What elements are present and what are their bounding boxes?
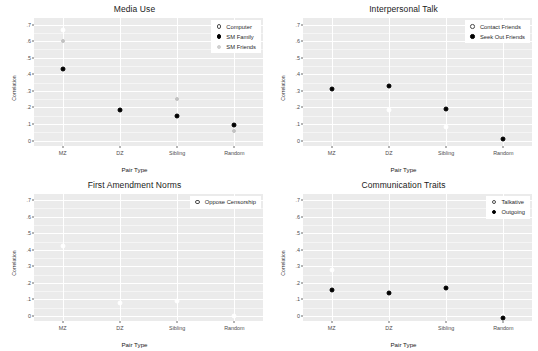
y-axis-tick-mark	[301, 140, 303, 141]
figure-panel-grid: Media UseCorrelationPair Type.7.6.5.4.3.…	[0, 0, 538, 351]
gridline-major	[34, 141, 263, 142]
gridline-vertical	[332, 18, 333, 146]
x-axis-tick-mark	[446, 321, 447, 323]
data-point	[232, 122, 237, 127]
gridline-major	[303, 316, 532, 317]
x-axis-tick-label: MZ	[59, 325, 67, 331]
legend: TalkativeOutgoing	[486, 196, 530, 219]
x-axis-tick-label: DZ	[116, 150, 123, 156]
y-axis-tick-mark	[32, 299, 34, 300]
legend-item[interactable]: Computer	[215, 23, 256, 30]
legend-marker-icon	[215, 33, 222, 40]
panel-first-amendment-norms: First Amendment NormsCorrelationPair Typ…	[0, 176, 269, 351]
y-axis-tick-mark	[32, 200, 34, 201]
legend-item-label: Talkative	[501, 199, 524, 205]
y-axis-tick-label: .7	[27, 197, 32, 203]
gridline-minor	[303, 291, 532, 292]
y-axis-tick-label: .5	[27, 230, 32, 236]
x-axis-tick-mark	[503, 146, 504, 148]
x-axis-tick-mark	[119, 146, 120, 148]
legend-item-label: Contact Friends	[480, 24, 521, 30]
y-axis-label: Correlation	[11, 75, 17, 100]
gridline-major	[303, 91, 532, 92]
y-axis-tick-label: .7	[27, 22, 32, 28]
y-axis-tick-mark	[301, 41, 303, 42]
legend-item[interactable]: SM Friends	[215, 43, 256, 50]
y-axis-tick-mark	[301, 57, 303, 58]
legend-item-label: Outgoing	[501, 209, 525, 215]
legend-item[interactable]: Seek Out Friends	[469, 33, 525, 40]
y-axis-tick-mark	[32, 74, 34, 75]
gridline-minor	[303, 242, 532, 243]
gridline-major	[303, 107, 532, 108]
plot-area: .7.6.5.4.3.2.10MZDZSiblingRandomComputer…	[34, 18, 263, 146]
gridline-minor	[303, 308, 532, 309]
gridline-vertical	[446, 194, 447, 322]
gridline-minor	[34, 258, 263, 259]
data-point	[117, 107, 122, 112]
legend-marker-icon	[469, 33, 476, 40]
legend-item-label: Computer	[226, 24, 251, 30]
legend-item[interactable]: SM Family	[215, 33, 256, 40]
panel-title: Media Use	[0, 4, 269, 14]
y-axis-tick-label: .2	[296, 104, 301, 110]
y-axis-label: Correlation	[280, 251, 286, 276]
y-axis-tick-mark	[301, 74, 303, 75]
y-axis-tick-label: .3	[296, 88, 301, 94]
gridline-minor	[34, 132, 263, 133]
x-axis-tick-label: Random	[224, 150, 244, 156]
y-axis-tick-mark	[301, 123, 303, 124]
legend-marker-icon	[490, 209, 497, 216]
gridline-major	[34, 299, 263, 300]
x-axis-tick-label: Sibling	[169, 150, 185, 156]
data-point	[444, 285, 449, 290]
gridline-minor	[34, 291, 263, 292]
data-point	[329, 287, 334, 292]
legend-item[interactable]: Oppose Censorship	[194, 199, 256, 206]
gridline-major	[303, 299, 532, 300]
gridline-minor	[34, 308, 263, 309]
y-axis-tick-label: .3	[27, 263, 32, 269]
legend-marker-icon	[469, 23, 476, 30]
legend-item[interactable]: Talkative	[490, 199, 525, 206]
legend-item-label: SM Family	[226, 34, 253, 40]
panel-title: Communication Traits	[269, 180, 538, 190]
x-axis-tick-mark	[446, 146, 447, 148]
y-axis-tick-label: .4	[27, 71, 32, 77]
y-axis-tick-mark	[301, 266, 303, 267]
gridline-major	[34, 74, 263, 75]
data-point	[501, 136, 506, 141]
y-axis-tick-mark	[32, 41, 34, 42]
gridline-major	[34, 233, 263, 234]
plot-area: .7.6.5.4.3.2.10MZDZSiblingRandomTalkativ…	[303, 194, 532, 322]
y-axis-tick-mark	[32, 123, 34, 124]
panel-title: First Amendment Norms	[0, 180, 269, 190]
gridline-vertical	[63, 194, 64, 322]
data-point	[61, 39, 65, 43]
legend-item-label: Oppose Censorship	[205, 199, 256, 205]
y-axis-tick-mark	[301, 249, 303, 250]
y-axis-tick-mark	[32, 316, 34, 317]
y-axis-tick-label: .2	[296, 280, 301, 286]
gridline-minor	[303, 116, 532, 117]
panel-communication-traits: Communication TraitsCorrelationPair Type…	[269, 176, 538, 351]
gridline-major	[34, 58, 263, 59]
legend-item[interactable]: Outgoing	[490, 209, 525, 216]
gridline-minor	[34, 242, 263, 243]
gridline-minor	[303, 275, 532, 276]
x-axis-tick-mark	[177, 146, 178, 148]
gridline-major	[303, 283, 532, 284]
legend-marker-icon	[194, 199, 201, 206]
y-axis-tick-mark	[32, 140, 34, 141]
y-axis-tick-label: .6	[27, 214, 32, 220]
data-point	[60, 244, 65, 249]
x-axis-tick-mark	[388, 321, 389, 323]
y-axis-tick-label: .1	[27, 296, 32, 302]
y-axis-label: Correlation	[280, 75, 286, 100]
gridline-vertical	[389, 194, 390, 322]
x-axis-label: Pair Type	[269, 166, 538, 173]
data-point	[232, 129, 236, 133]
data-point	[386, 290, 391, 295]
legend-item[interactable]: Contact Friends	[469, 23, 525, 30]
y-axis-tick-label: .6	[296, 214, 301, 220]
